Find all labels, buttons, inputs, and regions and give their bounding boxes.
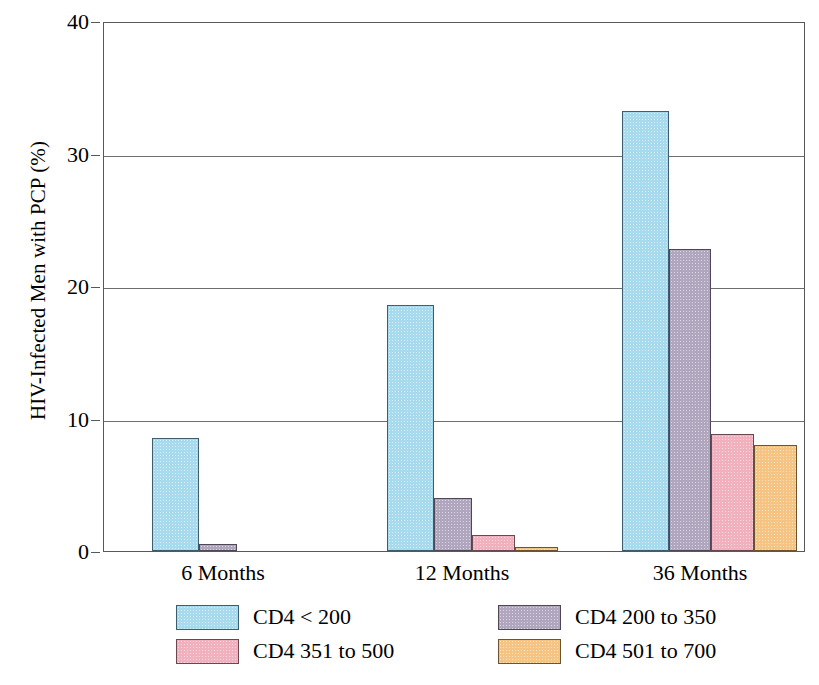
bar-12months-cd4-351-500 <box>472 535 515 551</box>
y-axis-tick-mark-30 <box>91 155 100 156</box>
y-axis-tick-label-0: 0 <box>29 539 89 565</box>
bar-6months-cd4-200-350 <box>199 544 237 551</box>
y-axis-tick-label-20: 20 <box>29 274 89 300</box>
chart-legend: CD4 < 200 CD4 200 to 350 CD4 351 to 500 … <box>176 600 796 668</box>
y-axis-tick-mark-20 <box>91 287 100 288</box>
legend-swatch-cd4-501-700 <box>498 639 561 664</box>
bar-36months-cd4-501-700 <box>754 445 797 551</box>
bar-chart-figure: HIV-Infected Men with PCP (%) 0 10 20 30… <box>0 0 819 685</box>
bar-6months-cd4-lt-200 <box>152 438 199 551</box>
y-axis-tick-mark-40 <box>91 22 100 23</box>
y-axis-tick-label-30: 30 <box>29 142 89 168</box>
y-axis-tick-label-40: 40 <box>29 9 89 35</box>
y-axis-tick-label-10: 10 <box>29 407 89 433</box>
legend-item-cd4-351-500: CD4 351 to 500 <box>176 638 498 664</box>
gridline-30 <box>104 156 804 157</box>
legend-item-cd4-lt-200: CD4 < 200 <box>176 604 498 630</box>
bar-12months-cd4-501-700 <box>515 547 558 551</box>
legend-swatch-cd4-lt-200 <box>176 605 239 630</box>
legend-swatch-cd4-200-350 <box>498 605 561 630</box>
y-axis-tick-mark-0 <box>91 552 100 553</box>
bar-36months-cd4-351-500 <box>711 434 754 551</box>
legend-item-cd4-501-700: CD4 501 to 700 <box>498 638 796 664</box>
legend-item-cd4-200-350: CD4 200 to 350 <box>498 604 796 630</box>
plot-area <box>103 22 805 552</box>
legend-label-cd4-351-500: CD4 351 to 500 <box>253 638 394 664</box>
legend-label-cd4-200-350: CD4 200 to 350 <box>575 604 716 630</box>
bar-36months-cd4-lt-200 <box>622 111 669 551</box>
bar-36months-cd4-200-350 <box>669 249 711 551</box>
x-axis-label-12-months: 12 Months <box>415 560 510 586</box>
legend-label-cd4-501-700: CD4 501 to 700 <box>575 638 716 664</box>
y-axis-tick-mark-10 <box>91 420 100 421</box>
bar-12months-cd4-200-350 <box>434 498 472 551</box>
x-axis-label-36-months: 36 Months <box>653 560 748 586</box>
legend-label-cd4-lt-200: CD4 < 200 <box>253 604 351 630</box>
x-axis-label-6-months: 6 Months <box>181 560 265 586</box>
legend-swatch-cd4-351-500 <box>176 639 239 664</box>
bar-12months-cd4-lt-200 <box>387 305 434 551</box>
